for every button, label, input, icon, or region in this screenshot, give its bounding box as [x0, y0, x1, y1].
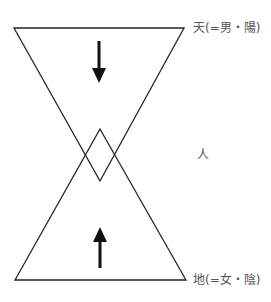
down-arrow-icon — [92, 41, 106, 83]
heaven-label: 天(=男・陽) — [193, 21, 260, 35]
earth-label: 地(=女・陰) — [193, 273, 260, 287]
diagram-canvas — [0, 0, 271, 302]
up-arrow-icon — [93, 227, 107, 268]
human-label: 人 — [197, 148, 209, 162]
